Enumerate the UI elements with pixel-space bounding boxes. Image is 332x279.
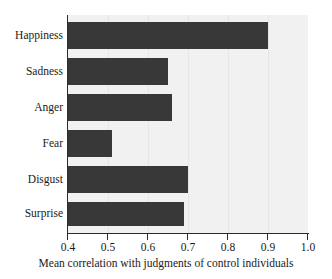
x-axis-title: Mean correlation with judgments of contr… — [0, 256, 332, 270]
bar-anger[interactable] — [68, 94, 172, 121]
x-tick-label-0.9: 0.9 — [248, 240, 288, 254]
x-tick-label-0.5: 0.5 — [88, 240, 128, 254]
bar-happiness[interactable] — [68, 22, 268, 49]
category-label-happiness: Happiness — [15, 29, 63, 42]
x-tick-label-0.6: 0.6 — [128, 240, 168, 254]
category-label-sadness: Sadness — [26, 65, 63, 78]
bar-sadness[interactable] — [68, 58, 168, 85]
gridline-0.9 — [268, 15, 269, 233]
bar-disgust[interactable] — [68, 166, 188, 193]
bar-chart-figure: Happiness Sadness Anger Fear Disgust Sur… — [0, 0, 332, 279]
x-tick-label-1.0: 1.0 — [288, 240, 328, 254]
bar-surprise[interactable] — [68, 202, 184, 226]
x-tick-label-0.4: 0.4 — [48, 240, 88, 254]
plot-area — [68, 15, 308, 233]
category-label-disgust: Disgust — [28, 173, 63, 186]
category-label-fear: Fear — [43, 137, 63, 150]
category-label-anger: Anger — [34, 101, 63, 114]
y-axis-line — [67, 15, 68, 234]
x-tick-label-0.8: 0.8 — [208, 240, 248, 254]
x-tick-label-0.7: 0.7 — [168, 240, 208, 254]
bar-fear[interactable] — [68, 130, 112, 157]
category-label-surprise: Surprise — [25, 207, 63, 220]
